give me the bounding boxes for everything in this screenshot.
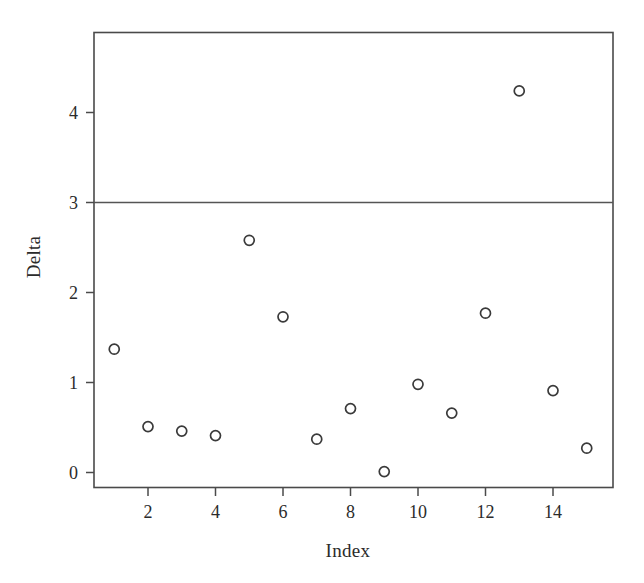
- y-axis-title: Delta: [23, 235, 44, 278]
- x-axis-tick-marks: [148, 488, 553, 497]
- data-point: [379, 467, 389, 477]
- x-tick-label-2: 2: [144, 502, 153, 522]
- data-point: [244, 235, 254, 245]
- data-point: [278, 312, 288, 322]
- x-axis-tick-labels: 2 4 6 8 10 12 14: [144, 502, 563, 522]
- y-axis-tick-marks: [86, 113, 94, 473]
- data-point-group: [109, 86, 592, 477]
- x-axis-title: Index: [326, 540, 371, 561]
- data-point: [447, 408, 457, 418]
- x-tick-label-6: 6: [279, 502, 288, 522]
- data-point: [177, 426, 187, 436]
- y-tick-label-1: 1: [69, 373, 78, 393]
- data-point: [346, 404, 356, 414]
- x-tick-label-12: 12: [477, 502, 495, 522]
- y-tick-label-0: 0: [69, 463, 78, 483]
- y-tick-label-2: 2: [69, 283, 78, 303]
- scatter-plot-figure: 0 1 2 3 4 2 4 6 8 10 12 14 Index D: [0, 0, 644, 583]
- plot-canvas: 0 1 2 3 4 2 4 6 8 10 12 14 Index D: [0, 0, 644, 583]
- data-point: [548, 386, 558, 396]
- data-point: [109, 344, 119, 354]
- data-point: [514, 86, 524, 96]
- y-axis-tick-labels: 0 1 2 3 4: [69, 103, 78, 483]
- data-point: [582, 443, 592, 453]
- y-tick-label-3: 3: [69, 193, 78, 213]
- x-tick-label-14: 14: [544, 502, 562, 522]
- x-tick-label-4: 4: [211, 502, 220, 522]
- data-point: [413, 379, 423, 389]
- data-point: [143, 422, 153, 432]
- data-point: [481, 308, 491, 318]
- data-point: [211, 431, 221, 441]
- data-point: [312, 434, 322, 444]
- plot-frame: [94, 33, 613, 488]
- x-tick-label-8: 8: [346, 502, 355, 522]
- y-tick-label-4: 4: [69, 103, 78, 123]
- x-tick-label-10: 10: [409, 502, 427, 522]
